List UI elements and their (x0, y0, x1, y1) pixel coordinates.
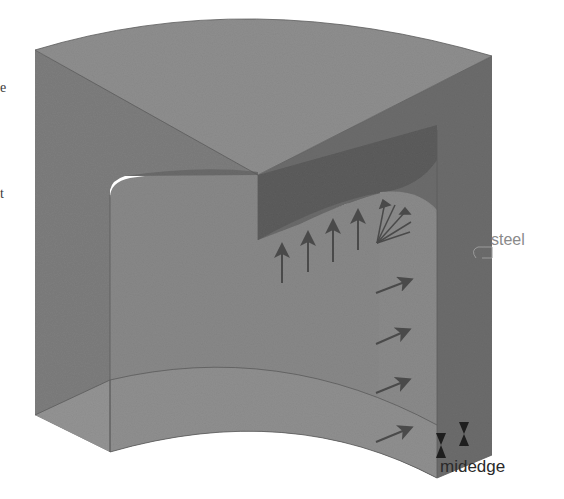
clipped-left-text-2: t (0, 186, 4, 202)
material-label: steel (491, 232, 525, 248)
cylinder-section-diagram (0, 0, 564, 499)
boundary-label: midedge (440, 458, 505, 475)
clipped-left-text-1: e (0, 80, 6, 96)
